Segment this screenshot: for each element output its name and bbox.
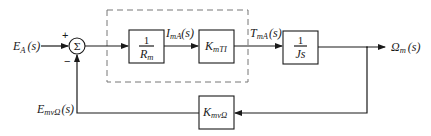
current-label: ImA(s) — [165, 26, 194, 41]
torque-label: TmA(s) — [250, 26, 282, 41]
block-inertia: 1 Js — [283, 31, 318, 64]
plus-sign: + — [62, 29, 68, 41]
block-feedback-gain: KmvΩ — [199, 96, 234, 129]
block-diagram: EA(s) Σ + − 1 Rm ImA(s) KmTI TmA(s) 1 Js… — [0, 0, 431, 136]
branch-point — [366, 46, 368, 48]
input-label: EA(s) — [12, 39, 40, 55]
feedback-return-arrow — [77, 55, 199, 113]
block-torque-constant: KmTI — [199, 30, 234, 63]
block-numerator: 1 — [298, 34, 304, 46]
block-inverse-resistance: 1 Rm — [129, 30, 164, 63]
block-denominator: Js — [296, 47, 306, 61]
summing-junction: Σ — [69, 38, 85, 54]
block-numerator: 1 — [144, 34, 150, 46]
back-emf-label: EmvΩ(s) — [36, 102, 74, 117]
output-label: Ωm(s) — [391, 40, 421, 55]
sigma-symbol: Σ — [73, 41, 80, 52]
minus-sign: − — [64, 55, 70, 67]
